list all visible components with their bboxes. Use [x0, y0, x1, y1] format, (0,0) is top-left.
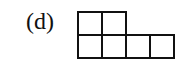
cell	[102, 12, 126, 35]
square-grid-diagram	[0, 0, 182, 81]
cell	[78, 12, 102, 35]
cell	[78, 35, 102, 58]
cell	[150, 35, 174, 58]
cell	[126, 35, 150, 58]
cell	[102, 35, 126, 58]
